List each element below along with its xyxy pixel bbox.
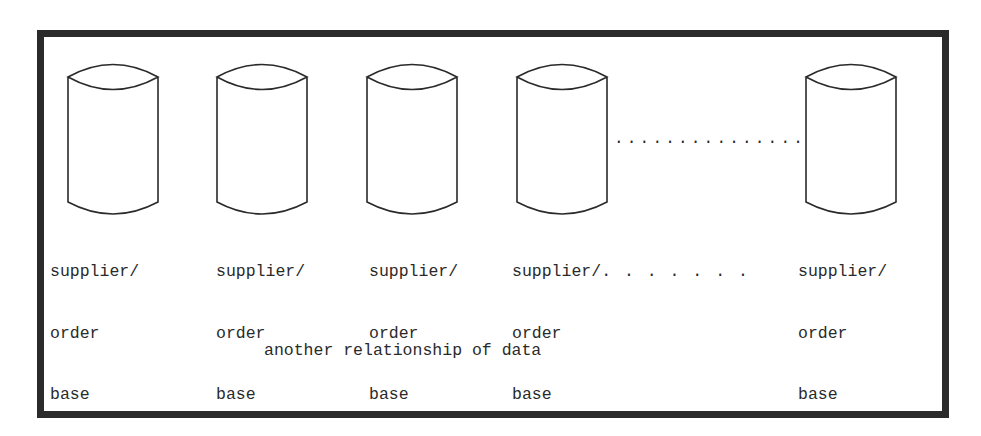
database-cylinder-icon bbox=[805, 62, 897, 220]
database-cylinder-icon bbox=[516, 62, 608, 220]
table-label-0: supplier/ order base table key=0xxx... bbox=[50, 221, 159, 436]
ellipsis-between-labels: . . . . . . . bbox=[601, 262, 749, 281]
database-cylinder-icon bbox=[366, 62, 458, 220]
database-cylinder-icon bbox=[216, 62, 308, 220]
table-label-3: supplier/. . . . . . . order base table … bbox=[512, 221, 749, 436]
table-label-2: supplier/ order base table key=2xxx... bbox=[369, 221, 478, 436]
table-label-1: supplier/ order base table key=1xxx... bbox=[216, 221, 325, 436]
database-cylinder-icon bbox=[67, 62, 159, 220]
diagram-caption: another relationship of data bbox=[264, 341, 541, 360]
ellipsis-between-cylinders: ............... bbox=[614, 130, 806, 148]
table-label-n: supplier/ order base table key=nxxx... bbox=[798, 221, 907, 436]
